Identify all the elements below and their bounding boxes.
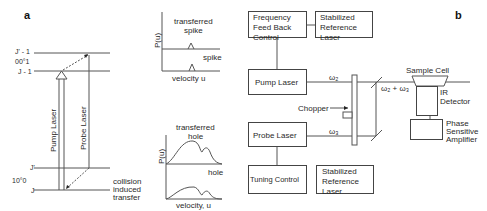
pump-laser-arrow-label: Pump Laser [49, 109, 58, 152]
pump-laser-box: Pump Laser [248, 69, 307, 95]
spike-plot-xlabel: velocity u [172, 74, 205, 83]
spike-plot-top-label: transferred [174, 17, 213, 26]
ir-detector-box [416, 86, 438, 116]
probe-laser-arrow-label: Probe Laser [79, 106, 88, 150]
ir-detector-label: IR [440, 88, 448, 97]
level-j-prime-minus-1: J' - 1 [15, 47, 30, 56]
spike-plot-ylabel: P(u) [153, 33, 162, 48]
omega3-label: ω₃ [329, 127, 339, 136]
hole-plot-bottom-label: hole [208, 168, 223, 177]
stabilized-reference-laser-bottom-box: Stabilized Reference Laser [316, 165, 374, 194]
probe-laser-box: Probe Laser [248, 122, 307, 147]
chopper-label: Chopper [298, 104, 329, 113]
spike-plot-bottom-label: spike [203, 53, 222, 62]
hole-plot-xlabel: velocity, u [176, 201, 211, 210]
omega2-label: ω₂ [329, 73, 338, 82]
sample-cell-label: Sample Cell [406, 66, 449, 75]
frequency-feedback-control-box: Frequency Feed Back Control [248, 11, 307, 38]
level-00-1: 00°1 [15, 57, 29, 66]
phase-sensitive-amplifier-box [410, 119, 443, 140]
omega-sum-label: ω₂ + ω₃ [381, 84, 409, 93]
panel-a-label: a [24, 9, 30, 21]
tuning-control-box: Tuning Control [248, 165, 307, 194]
level-j-prime: J' [30, 163, 35, 172]
level-j-minus-1: J - 1 [18, 67, 32, 76]
hole-plot-top-label: transferred [176, 123, 215, 132]
level-10-0: 10°0 [12, 176, 26, 185]
panel-b-label: b [455, 9, 462, 21]
hole-plot-ylabel: P(u) [157, 149, 166, 164]
level-j: J [31, 186, 35, 195]
diagram-lines [0, 0, 487, 211]
stabilized-reference-laser-top-box: Stabilized Reference Laser [315, 11, 373, 38]
